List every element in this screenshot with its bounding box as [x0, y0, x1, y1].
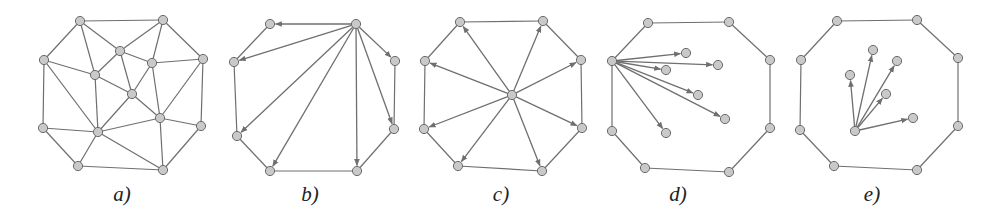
graph-node [953, 53, 962, 62]
graph-node [265, 166, 274, 175]
graph-edge [425, 22, 460, 61]
graph-edge [160, 118, 163, 170]
graph-edge [43, 128, 78, 166]
graph-node [73, 161, 82, 170]
directed-edge [617, 54, 681, 61]
panel-label: b) [301, 182, 319, 206]
graph-edge [837, 20, 917, 21]
graph-node [892, 56, 901, 65]
graph-node [607, 56, 616, 65]
directed-edge [514, 26, 541, 91]
directed-edge [514, 99, 540, 166]
graph-edge [917, 126, 958, 170]
graph-node [713, 60, 722, 69]
graph-edge [44, 21, 80, 60]
graph-edge [612, 23, 648, 61]
panel-a: a) [38, 15, 207, 206]
directed-edge [463, 27, 509, 92]
graph-edge [581, 60, 582, 128]
graph-node [908, 113, 917, 122]
graph-node [537, 166, 546, 175]
directed-edge [516, 63, 576, 93]
graph-edge [917, 20, 958, 58]
directed-edge [516, 97, 577, 126]
graph-node [643, 18, 652, 27]
graph-edge [394, 61, 395, 129]
graph-edge [98, 118, 160, 132]
graph-edge [98, 132, 163, 170]
graph-node [90, 70, 99, 79]
graph-edge [78, 166, 163, 170]
graph-edge [460, 21, 543, 22]
graph-edge [424, 61, 425, 129]
graph-edge [729, 22, 770, 60]
graph-edge [120, 51, 152, 63]
directed-edge [461, 99, 509, 162]
graph-node [507, 90, 516, 99]
directed-edge [359, 27, 391, 57]
panel-label: c) [493, 182, 509, 206]
graph-edge [201, 59, 203, 126]
graph-edge [98, 94, 132, 132]
directed-edge [859, 119, 907, 130]
graph-node [640, 163, 649, 172]
graph-node [796, 55, 805, 64]
graph-node [724, 167, 733, 176]
graph-edge [800, 130, 834, 166]
graph-edge [424, 129, 458, 166]
graph-node [681, 48, 690, 57]
directed-edge [430, 63, 507, 93]
graph-edge [801, 21, 837, 60]
panel-e: e) [795, 15, 962, 206]
graph-edge [78, 132, 98, 166]
graph-edge [132, 94, 160, 118]
graph-edge [44, 60, 98, 132]
graph-edge [120, 51, 132, 94]
graph-node [845, 70, 854, 79]
graph-edge [612, 131, 645, 168]
graph-edge [132, 63, 152, 94]
directed-edge [850, 81, 854, 127]
graph-node [351, 19, 360, 28]
graph-node [881, 89, 890, 98]
graph-node [158, 165, 167, 174]
graph-node [607, 126, 616, 135]
graph-node [390, 56, 399, 65]
graph-node [420, 56, 429, 65]
graph-node [115, 46, 124, 55]
graph-node [232, 131, 241, 140]
graph-node [912, 165, 921, 174]
graph-edge [645, 168, 729, 172]
panel-d: d) [607, 17, 774, 206]
graph-edge [163, 20, 203, 59]
panel-label: e) [864, 182, 880, 206]
graph-edge [234, 62, 237, 136]
graph-node [158, 15, 167, 24]
directed-edge [616, 63, 693, 93]
graph-node [661, 65, 670, 74]
graph-node [724, 17, 733, 26]
graph-node [155, 113, 164, 122]
graph-node [538, 16, 547, 25]
graph-node [389, 124, 398, 133]
graph-node [147, 58, 156, 67]
directed-edge [239, 25, 351, 60]
directed-edge [429, 97, 507, 127]
graph-edge [80, 21, 120, 51]
graph-node [850, 126, 859, 135]
graph-node [75, 16, 84, 25]
graph-node [765, 55, 774, 64]
graph-edge [163, 126, 201, 170]
graph-node [765, 123, 774, 132]
graph-figure: a) b) c) d) e) [0, 0, 999, 218]
graph-node [832, 16, 841, 25]
graph-node [93, 127, 102, 136]
graph-node [127, 89, 136, 98]
graph-edge [43, 60, 44, 128]
graph-node [795, 125, 804, 134]
graph-edge [834, 166, 917, 170]
graph-node [196, 121, 205, 130]
graph-node [455, 17, 464, 26]
graph-edge [44, 60, 95, 75]
graph-edge [458, 166, 542, 171]
